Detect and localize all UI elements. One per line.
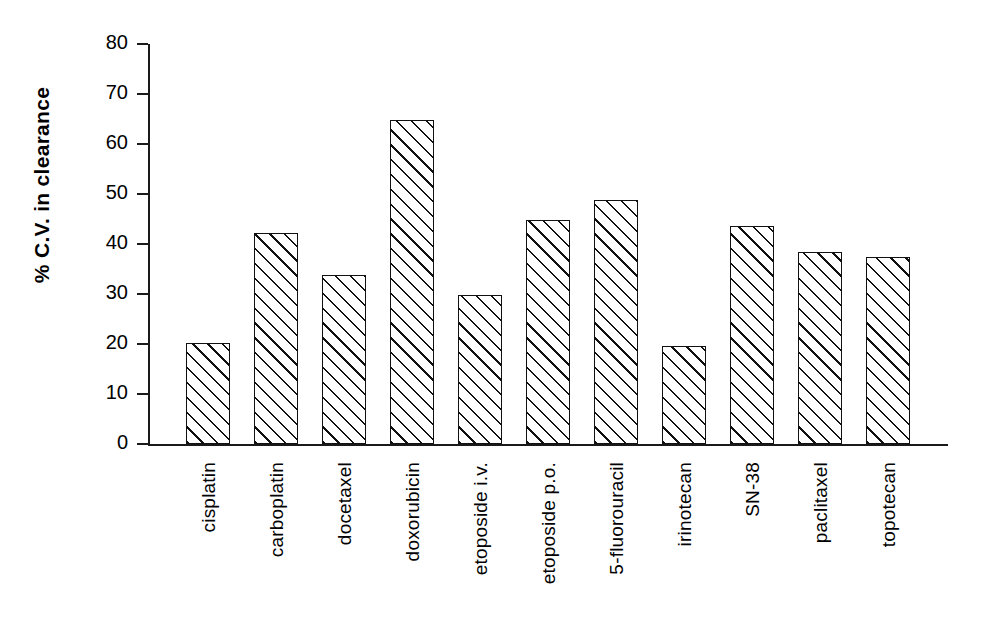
y-axis-tick-label: 10 — [82, 382, 128, 402]
y-axis-title: % C.V. in clearance — [14, 0, 70, 420]
y-axis-tick-label: 40 — [82, 232, 128, 252]
y-axis-tick: 50 — [137, 193, 148, 195]
bar — [798, 252, 842, 444]
bar — [526, 220, 570, 444]
x-axis-tick-label: etoposide p.o. — [539, 462, 558, 584]
x-axis-tick-label: doxorubicin — [403, 462, 422, 561]
x-axis-tick-label: SN-38 — [743, 462, 762, 517]
bar-chart-figure: % C.V. in clearance 01020304050607080 ci… — [0, 0, 981, 631]
y-axis-tick: 0 — [137, 443, 148, 445]
x-axis-tick-label: paclitaxel — [811, 462, 830, 543]
y-axis-tick: 70 — [137, 93, 148, 95]
x-axis-label-slot: carboplatin — [254, 462, 298, 622]
x-axis-label-slot: etoposide i.v. — [458, 462, 502, 622]
x-axis-label-slot: 5-fluorouracil — [594, 462, 638, 622]
x-axis-label-slot: cisplatin — [186, 462, 230, 622]
bar — [594, 200, 638, 444]
bar — [458, 295, 502, 444]
y-axis-tick: 60 — [137, 143, 148, 145]
bar — [730, 226, 774, 444]
y-axis-tick-label: 20 — [82, 332, 128, 352]
x-axis-label-slot: topotecan — [866, 462, 910, 622]
x-axis-tick-label: irinotecan — [675, 462, 694, 546]
bar — [186, 343, 230, 444]
bar — [390, 120, 434, 444]
x-axis-label-slot: etoposide p.o. — [526, 462, 570, 622]
x-axis-label-slot: SN-38 — [730, 462, 774, 622]
x-axis-tick-label: topotecan — [879, 462, 898, 547]
y-axis-line — [148, 44, 150, 445]
y-axis-tick-label: 50 — [82, 182, 128, 202]
bar — [866, 257, 910, 444]
plot-area: 01020304050607080 — [148, 44, 948, 444]
bar — [254, 233, 298, 444]
x-axis-label-slot: docetaxel — [322, 462, 366, 622]
y-axis-tick: 20 — [137, 343, 148, 345]
x-axis-line — [148, 444, 948, 446]
y-axis-tick-label: 30 — [82, 282, 128, 302]
y-axis-tick: 30 — [137, 293, 148, 295]
bar — [662, 346, 706, 444]
x-axis-tick-label: carboplatin — [267, 462, 286, 557]
x-axis-label-slot: paclitaxel — [798, 462, 842, 622]
x-axis-tick-label: docetaxel — [335, 462, 354, 545]
x-axis-label-slot: irinotecan — [662, 462, 706, 622]
y-axis-tick-label: 80 — [82, 32, 128, 52]
y-axis-tick: 40 — [137, 243, 148, 245]
x-axis-tick-label: etoposide i.v. — [471, 462, 490, 575]
y-axis-tick-label: 60 — [82, 132, 128, 152]
x-axis-tick-label: cisplatin — [199, 462, 218, 532]
y-axis-tick: 10 — [137, 393, 148, 395]
y-axis-tick-label: 0 — [82, 432, 128, 452]
y-axis-tick-label: 70 — [82, 82, 128, 102]
x-axis-label-slot: doxorubicin — [390, 462, 434, 622]
y-axis-tick: 80 — [137, 43, 148, 45]
bar — [322, 275, 366, 444]
x-axis-tick-label: 5-fluorouracil — [607, 462, 626, 575]
